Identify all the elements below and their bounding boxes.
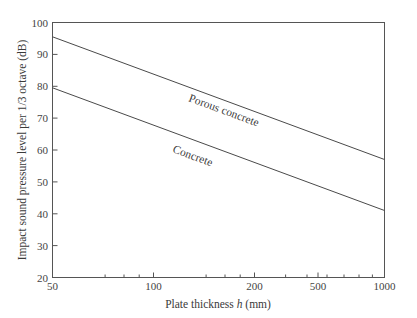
- x-tick-label: 100: [145, 280, 162, 292]
- impact-sound-pressure-chart: 100 90 80 70 60 50 40 30 20: [0, 0, 417, 318]
- y-tick-label: 50: [37, 176, 49, 188]
- y-tick-label: 30: [37, 240, 49, 252]
- figure-container: 100 90 80 70 60 50 40 30 20: [0, 0, 417, 318]
- series-line-porous-concrete: [53, 37, 385, 160]
- y-tick-label: 100: [32, 17, 49, 29]
- x-tick-label: 1000: [374, 280, 397, 292]
- y-tick-label: 70: [37, 112, 49, 124]
- x-axis-major-ticks: [53, 273, 385, 278]
- x-tick-label: 50: [47, 280, 59, 292]
- y-tick-label: 60: [37, 144, 49, 156]
- y-axis-ticks: [53, 23, 58, 278]
- series-label-concrete: Concrete: [171, 143, 214, 169]
- y-tick-label: 40: [37, 208, 49, 220]
- x-axis-title: Plate thickness h (mm): [165, 298, 271, 311]
- y-tick-label: 90: [37, 48, 49, 60]
- y-axis-tick-labels: 100 90 80 70 60 50 40 30 20: [32, 17, 49, 284]
- y-tick-label: 80: [37, 80, 49, 92]
- x-tick-label: 500: [310, 280, 327, 292]
- y-axis-title: Impact sound pressure level per 1/3 octa…: [16, 40, 29, 261]
- x-axis-tick-labels: 50 100 200 500 1000: [47, 280, 396, 292]
- plot-frame: [53, 23, 385, 278]
- x-axis-title-suffix: (mm): [242, 298, 271, 311]
- x-axis-title-prefix: Plate thickness: [165, 298, 237, 310]
- x-tick-label: 200: [246, 280, 263, 292]
